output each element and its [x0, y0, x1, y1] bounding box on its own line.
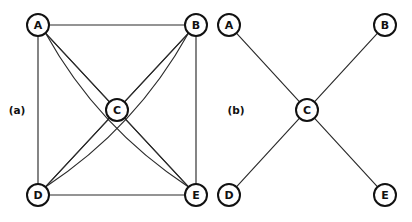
node-panel-a-d[interactable]: D	[27, 184, 49, 206]
edge-c-d	[236, 118, 299, 187]
node-panel-b-c[interactable]: C	[296, 99, 318, 121]
node-panel-b-e[interactable]: E	[374, 184, 396, 206]
graph-figure: ABCDEABCDE (a)(b)	[0, 0, 412, 222]
node-label: E	[192, 189, 200, 202]
panel-caption-panel-b: (b)	[227, 104, 244, 116]
node-label: D	[224, 189, 233, 202]
node-panel-b-a[interactable]: A	[218, 14, 240, 36]
node-label: E	[381, 189, 389, 202]
node-label: B	[192, 19, 200, 32]
node-panel-a-e[interactable]: E	[185, 184, 207, 206]
nodes-layer: ABCDEABCDE	[27, 14, 396, 206]
node-label: A	[225, 19, 234, 32]
node-panel-b-b[interactable]: B	[374, 14, 396, 36]
node-panel-a-a[interactable]: A	[27, 14, 49, 36]
node-label: C	[113, 104, 121, 117]
node-panel-a-b[interactable]: B	[185, 14, 207, 36]
node-label: A	[34, 19, 43, 32]
node-label: B	[381, 19, 389, 32]
edge-c-e	[314, 118, 377, 187]
edge-c-a	[236, 33, 299, 102]
node-label: C	[303, 104, 311, 117]
node-panel-b-d[interactable]: D	[218, 184, 240, 206]
node-label: D	[33, 189, 42, 202]
panel-caption-panel-a: (a)	[9, 104, 26, 116]
edges-layer	[38, 25, 378, 195]
edge-c-b	[314, 33, 377, 102]
node-panel-a-c[interactable]: C	[106, 99, 128, 121]
figure-canvas: ABCDEABCDE (a)(b)	[0, 0, 412, 222]
